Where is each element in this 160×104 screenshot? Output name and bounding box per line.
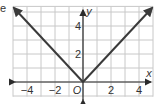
fragment-text: e [0,2,6,14]
axes [15,10,151,100]
y-tick-label: 4 [75,20,81,32]
line-left-arm [14,8,83,82]
origin-label: O [73,84,82,96]
x-tick-label: −2 [49,84,62,96]
line-right-arm [83,8,152,82]
x-tick-label: −4 [21,84,34,96]
x-tick-label: 4 [136,84,142,96]
x-tick-label: 2 [108,84,114,96]
x-axis-label: x [145,67,152,79]
y-tick-label: 2 [75,48,81,60]
graph: e −4−22424Oxy [0,0,160,104]
